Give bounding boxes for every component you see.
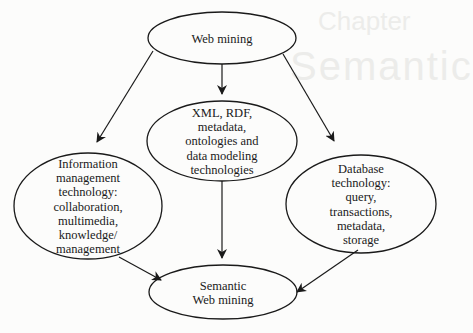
arrow-web-mining-to-info-mgmt: [97, 51, 153, 142]
node-xml-rdf-metadata: XML, RDF, metadata, ontologies and data …: [185, 106, 258, 177]
node-web-mining: Web mining: [191, 32, 252, 46]
node-semantic-web-mining: Semantic Web mining: [192, 279, 253, 307]
arrow-info-mgmt-to-semantic-web-mining: [119, 257, 161, 280]
node-information-management: Information management technology: colla…: [53, 157, 122, 256]
arrow-database-to-semantic-web-mining: [297, 250, 358, 292]
node-database-technology: Database technology: query, transactions…: [330, 162, 393, 247]
arrow-web-mining-to-database: [283, 54, 334, 141]
